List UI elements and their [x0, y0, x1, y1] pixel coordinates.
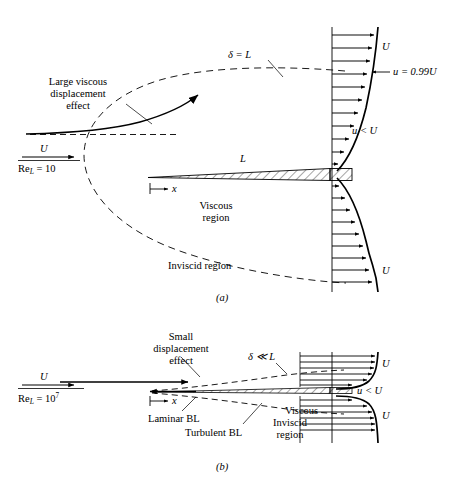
- leader-delta-b: [276, 363, 287, 374]
- reynolds-prefix-a: Re: [18, 163, 30, 174]
- velocity-profile-curve-a-bottom: [337, 178, 378, 292]
- u-freestream-bottom-label-a: U: [382, 265, 390, 277]
- reynolds-exponent-b: 7: [56, 392, 60, 400]
- large-viscous-line1: Large viscous: [26, 76, 130, 88]
- u-freestream-top-label-a: U: [382, 41, 390, 53]
- flat-plate-b: [152, 388, 330, 394]
- reynolds-prefix-b: Re: [18, 393, 30, 404]
- viscous-region-line2: region: [186, 212, 246, 224]
- small-disp-line3: effect: [132, 355, 230, 367]
- viscous-label-b: Viscous: [285, 405, 318, 417]
- panel-a-graphics: [18, 27, 390, 292]
- u-099-label-a: u = 0.99U: [393, 66, 437, 78]
- leader-delta-a: [268, 60, 283, 77]
- velocity-profile-curve-b-bottom: [336, 396, 378, 443]
- velocity-arrows-b-top: [300, 356, 375, 385]
- flat-plate-a: [148, 169, 330, 181]
- panel-b-caption: (b): [216, 461, 228, 473]
- large-viscous-displacement-effect-label: Large viscous displacement effect: [26, 76, 130, 112]
- viscous-region-line1: Viscous: [186, 200, 246, 212]
- inviscid-region-label-a: Inviscid region: [168, 260, 231, 272]
- reynolds-number-label-b: ReL = 107: [18, 391, 59, 407]
- inviscid-region-label-b: Inviscid region: [266, 417, 314, 441]
- inflow-velocity-symbol-a: U: [40, 143, 48, 155]
- boundary-layer-figure: Large viscous displacement effect δ = L …: [0, 0, 460, 490]
- viscous-region-label-a: Viscous region: [186, 200, 246, 224]
- large-viscous-line3: effect: [26, 100, 130, 112]
- u-less-than-U-label-b: u < U: [357, 385, 382, 397]
- leader-turbulent-b: [243, 403, 262, 424]
- u-less-than-U-label-a: u < U: [352, 125, 377, 137]
- x-axis-label-b: x: [172, 395, 177, 407]
- reynolds-number-label-a: ReL = 10: [18, 163, 56, 177]
- leader-laminar-b: [182, 397, 196, 411]
- inviscid-line1-b: Inviscid: [266, 417, 314, 429]
- x-axis-label-a: x: [172, 183, 177, 195]
- small-disp-line2: displacement: [132, 343, 230, 355]
- reynolds-value-a: = 10: [34, 163, 56, 174]
- plate-length-label-a: L: [240, 153, 246, 165]
- reynolds-value-b: = 10: [34, 393, 56, 404]
- delta-equals-L-label: δ = L: [228, 49, 251, 61]
- inviscid-line2-b: region: [266, 429, 314, 441]
- velocity-profile-curve-a-top: [337, 27, 378, 171]
- u-freestream-top-label-b: U: [382, 358, 390, 370]
- small-displacement-effect-label: Small displacement effect: [132, 331, 230, 367]
- plate-trailing-block-a: [330, 169, 352, 181]
- large-viscous-line2: displacement: [26, 88, 130, 100]
- inflow-velocity-symbol-b: U: [40, 371, 48, 383]
- u-freestream-bottom-label-b: U: [382, 410, 390, 422]
- laminar-bl-label: Laminar BL: [148, 413, 200, 425]
- small-disp-line1: Small: [132, 331, 230, 343]
- delta-much-less-L-label: δ ≪ L: [248, 351, 275, 363]
- figure-vector-layer: [0, 0, 460, 490]
- panel-a-caption: (a): [216, 292, 228, 304]
- turbulent-bl-label: Turbulent BL: [185, 427, 242, 439]
